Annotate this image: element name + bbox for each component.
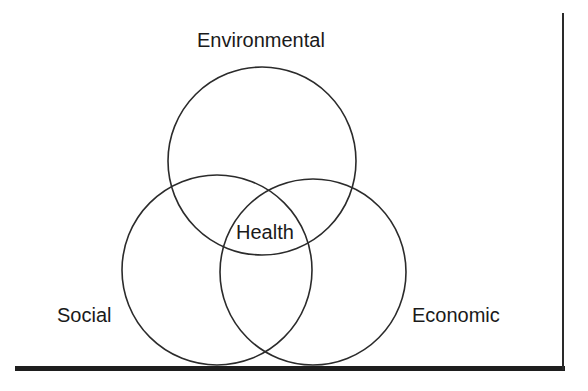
economic-label: Economic xyxy=(412,305,500,325)
right-vertical-line xyxy=(562,13,564,370)
health-label: Health xyxy=(236,222,294,242)
economic-circle xyxy=(220,179,406,365)
environmental-label: Environmental xyxy=(197,30,325,50)
social-label: Social xyxy=(57,305,111,325)
social-circle xyxy=(122,175,312,365)
venn-diagram xyxy=(0,0,588,391)
baseline xyxy=(15,366,565,371)
